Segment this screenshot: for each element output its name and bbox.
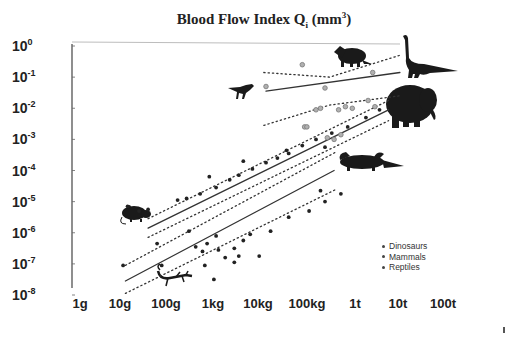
reptiles-data-point [307, 209, 311, 213]
x-tick-label: 1t [349, 296, 361, 311]
y-tick-label: 10-2 [12, 99, 36, 116]
x-tick-label: 1g [72, 296, 87, 311]
elephant-silhouette-icon [386, 85, 437, 128]
data-points [121, 62, 381, 281]
y-tick-label: 10-1 [12, 68, 36, 85]
mammals-data-point [198, 192, 202, 196]
reptiles-data-point [232, 260, 236, 264]
legend-label: Mammals [389, 252, 426, 263]
mammals-data-point [228, 178, 232, 182]
reptiles-data-point [339, 192, 343, 196]
y-axis-labels: 10010-110-210-310-410-510-610-710-8 [12, 37, 75, 303]
bullet-icon [382, 245, 385, 248]
mammals-data-point [146, 208, 150, 212]
regression-lines [125, 55, 400, 293]
bullet-icon [382, 255, 385, 258]
x-tick-label: 100t [430, 296, 457, 311]
x-tick-label: 10t [389, 296, 408, 311]
dinosaurs-data-point [332, 137, 337, 142]
dinosaurs-data-point [350, 106, 355, 111]
mammals-data-point [137, 209, 141, 213]
reptiles-data-point [201, 250, 205, 254]
triceratops-silhouette-icon [334, 46, 372, 67]
x-tick-label: 10g [109, 296, 131, 311]
reptiles-data-point [257, 254, 261, 258]
reptiles-data-point [205, 242, 209, 246]
theropod-silhouette-icon [228, 84, 254, 99]
y-tick-label: 10-7 [12, 255, 36, 272]
reptiles-data-point [269, 229, 273, 233]
mammals-data-point [185, 197, 189, 201]
x-tick-label: 1kg [202, 296, 224, 311]
x-tick-label: 100g [151, 296, 181, 311]
lizard-silhouette-icon [158, 264, 192, 286]
y-tick-label: 10-8 [12, 286, 36, 303]
reptiles-data-point [241, 239, 245, 243]
top-border-line [72, 42, 400, 44]
mammals-data-point [176, 198, 180, 202]
legend-item-reptiles: Reptiles [382, 262, 427, 273]
reptiles-data-point [121, 264, 125, 268]
dinosaurs-data-point [343, 104, 348, 109]
reptiles-data-point [194, 245, 198, 249]
reptiles-ci-lower-line [125, 189, 336, 293]
reptiles-data-point [323, 200, 327, 204]
y-tick-label: 10-6 [12, 224, 36, 241]
dinosaurs-data-point [314, 108, 319, 113]
y-tick-label: 100 [12, 37, 33, 54]
mammals-data-point [264, 161, 268, 165]
dinosaurs-data-point [373, 104, 378, 109]
mammals-data-point [300, 144, 304, 148]
x-axis-labels: 1g10g100g1kg10kg100kg1t10t100t [72, 296, 456, 311]
dinosaurs-data-point [323, 86, 328, 91]
reptiles-data-point [214, 234, 218, 238]
reptiles-data-point [217, 248, 221, 252]
dinosaurs-data-point [339, 132, 344, 137]
legend-label: Dinosaurs [389, 241, 427, 252]
dinosaurs-data-point [366, 98, 371, 103]
mammals-data-point [314, 138, 318, 142]
reptiles-data-point [155, 242, 159, 246]
mammals-data-point [364, 116, 368, 120]
reptiles-fit-line [125, 171, 334, 282]
legend-item-dinosaurs: Dinosaurs [382, 241, 427, 252]
mammals-data-point [346, 125, 350, 129]
reptiles-data-point [187, 229, 191, 233]
mammals-data-point [276, 156, 280, 160]
mammals-fit-line [148, 110, 389, 228]
x-tick-label: 10kg [243, 296, 273, 311]
dinosaurs-data-point [325, 136, 330, 141]
legend-item-mammals: Mammals [382, 252, 427, 263]
sauropod-silhouette-icon [403, 35, 458, 78]
dinosaurs-data-point [370, 70, 375, 75]
dinosaurs-data-point [336, 108, 341, 113]
reptiles-data-point [203, 264, 207, 268]
mammals-data-point [241, 159, 245, 163]
mammals-data-point [323, 145, 327, 149]
rat-silhouette-icon [121, 205, 151, 224]
y-tick-label: 10-5 [12, 193, 36, 210]
dinosaurs-data-point [300, 62, 305, 67]
mammals-data-point [287, 152, 291, 156]
plot-area: 10010-110-210-310-410-510-610-710-8 1g10… [0, 0, 508, 341]
mammals-data-point [237, 173, 241, 177]
page-edge-mark [503, 327, 505, 333]
reptiles-data-point [237, 254, 241, 258]
crocodile-silhouette-icon [340, 152, 404, 171]
mammals-data-point [207, 175, 211, 179]
reptiles-ci-upper-line [125, 152, 336, 266]
reptiles-data-point [160, 264, 164, 268]
mammals-data-point [214, 186, 218, 190]
mammals-data-point [285, 148, 289, 152]
y-tick-label: 10-3 [12, 130, 36, 147]
reptiles-data-point [319, 189, 323, 193]
dinosaurs-fit-line [266, 73, 400, 92]
reptiles-data-point [212, 278, 216, 282]
dinosaurs-ci-upper-line [264, 55, 400, 77]
mammals-data-point [378, 108, 382, 112]
reptiles-data-point [248, 232, 252, 236]
bullet-icon [382, 266, 385, 269]
dinosaurs-data-point [305, 125, 310, 130]
reptiles-data-point [232, 246, 236, 250]
reptiles-data-point [223, 256, 227, 260]
